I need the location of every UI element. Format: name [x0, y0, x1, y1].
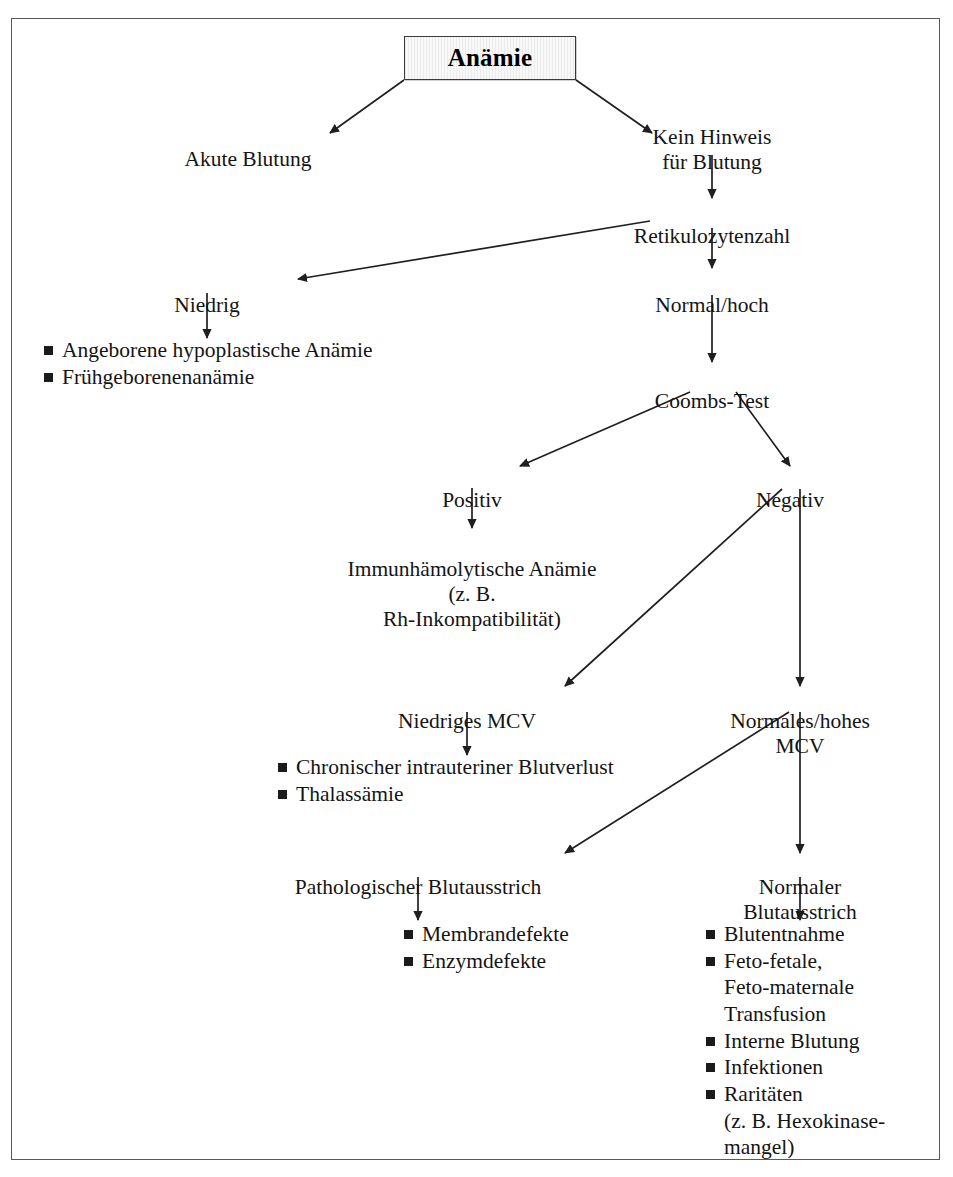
- bullet-square-icon: [44, 346, 53, 355]
- bullet-list-niedrig-causes: Angeborene hypoplastische Anämie Frühgeb…: [44, 337, 372, 390]
- list-item-label: Chronischer intrauteriner Blutverlust: [296, 754, 614, 781]
- list-item: Infektionen: [706, 1054, 885, 1081]
- bullet-square-icon: [706, 1090, 715, 1099]
- node-coombs-test-label: Coombs-Test: [655, 389, 769, 413]
- node-normales-hohes-mcv-label: Normales/hohes MCV: [730, 709, 870, 758]
- bullet-square-icon: [706, 1037, 715, 1046]
- list-item: Angeborene hypoplastische Anämie: [44, 337, 372, 364]
- list-item: Enzymdefekte: [404, 948, 569, 975]
- bullet-square-icon: [706, 957, 715, 966]
- list-item-label: Interne Blutung: [724, 1028, 860, 1055]
- node-kein-hinweis-fuer-blutung: Kein Hinweis für Blutung: [653, 100, 772, 175]
- node-immunhaemolytische-anaemie-label: Immunhämolytische Anämie (z. B. Rh-Inkom…: [348, 557, 597, 631]
- list-item-label: Feto-fetale, Feto-maternale Transfusion: [724, 948, 854, 1028]
- bullet-list-normaler-causes: Blutentnahme Feto-fetale, Feto-maternale…: [706, 921, 885, 1161]
- node-coombs-test: Coombs-Test: [655, 364, 769, 414]
- node-niedriges-mcv-label: Niedriges MCV: [398, 709, 536, 733]
- bullet-list-niedriges-mcv-causes: Chronischer intrauteriner Blutverlust Th…: [278, 754, 614, 807]
- bullet-square-icon: [278, 763, 287, 772]
- list-item: Blutentnahme: [706, 921, 885, 948]
- list-item-label: Membrandefekte: [422, 921, 569, 948]
- node-pathologischer-blutausstrich: Pathologischer Blutausstrich: [295, 850, 542, 900]
- bullet-square-icon: [706, 1063, 715, 1072]
- node-positiv-label: Positiv: [442, 488, 502, 512]
- flowchart-page: Anämie Akute Blutung Kein Hinweis für Bl…: [0, 0, 953, 1177]
- list-item: Chronischer intrauteriner Blutverlust: [278, 754, 614, 781]
- node-niedrig: Niedrig: [174, 268, 240, 318]
- node-pathologischer-blutausstrich-label: Pathologischer Blutausstrich: [295, 875, 542, 899]
- list-item-label: Blutentnahme: [724, 921, 845, 948]
- list-item-label: Thalassämie: [296, 781, 403, 808]
- node-normal-hoch-label: Normal/hoch: [655, 293, 768, 317]
- node-immunhaemolytische-anaemie: Immunhämolytische Anämie (z. B. Rh-Inkom…: [348, 532, 597, 633]
- bullet-square-icon: [278, 790, 287, 799]
- node-positiv: Positiv: [442, 463, 502, 513]
- list-item-label: Raritäten (z. B. Hexokinase- mangel): [724, 1081, 885, 1161]
- node-niedrig-label: Niedrig: [174, 293, 240, 317]
- list-item: Feto-fetale, Feto-maternale Transfusion: [706, 948, 885, 1028]
- root-node-anaemie: Anämie: [404, 36, 576, 80]
- list-item: Frühgeborenenanämie: [44, 364, 372, 391]
- list-item-label: Angeborene hypoplastische Anämie: [62, 337, 372, 364]
- list-item-label: Infektionen: [724, 1054, 823, 1081]
- node-normales-hohes-mcv: Normales/hohes MCV: [724, 684, 877, 759]
- bullet-square-icon: [44, 373, 53, 382]
- list-item: Raritäten (z. B. Hexokinase- mangel): [706, 1081, 885, 1161]
- node-normal-hoch: Normal/hoch: [655, 268, 768, 318]
- node-negativ: Negativ: [756, 463, 824, 513]
- list-item: Membrandefekte: [404, 921, 569, 948]
- root-node-label: Anämie: [448, 44, 533, 72]
- bullet-square-icon: [404, 957, 413, 966]
- bullet-square-icon: [404, 930, 413, 939]
- list-item-label: Frühgeborenenanämie: [62, 364, 254, 391]
- list-item: Thalassämie: [278, 781, 614, 808]
- list-item-label: Enzymdefekte: [422, 948, 546, 975]
- node-normaler-blutausstrich: Normaler Blutausstrich: [724, 850, 877, 925]
- bullet-square-icon: [706, 930, 715, 939]
- node-retikulozytenzahl: Retikulozytenzahl: [634, 199, 790, 249]
- node-akute-blutung: Akute Blutung: [184, 122, 311, 172]
- node-negativ-label: Negativ: [756, 488, 824, 512]
- node-akute-blutung-label: Akute Blutung: [184, 147, 311, 171]
- node-kein-hinweis-fuer-blutung-label: Kein Hinweis für Blutung: [653, 125, 772, 174]
- list-item: Interne Blutung: [706, 1028, 885, 1055]
- node-retikulozytenzahl-label: Retikulozytenzahl: [634, 224, 790, 248]
- node-normaler-blutausstrich-label: Normaler Blutausstrich: [743, 875, 856, 924]
- node-niedriges-mcv: Niedriges MCV: [398, 684, 536, 734]
- bullet-list-pathologischer-causes: Membrandefekte Enzymdefekte: [404, 921, 569, 974]
